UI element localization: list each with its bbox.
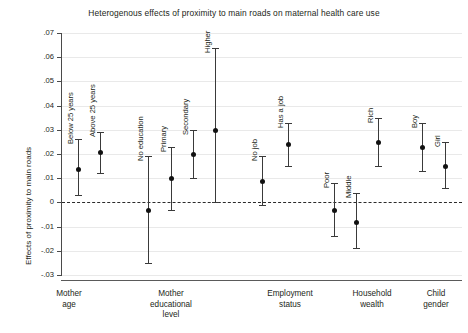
y-axis-tick — [57, 130, 62, 131]
chart-title: Heterogenous effects of proximity to mai… — [0, 8, 468, 18]
figure-root: Heterogenous effects of proximity to mai… — [0, 0, 468, 333]
series-label: Rich — [366, 107, 375, 122]
series-label: Higher — [203, 30, 212, 52]
x-group-label-line: Employment — [250, 289, 330, 300]
error-bar-cap — [145, 263, 152, 264]
y-axis-tick — [57, 154, 62, 155]
gridline — [62, 130, 462, 131]
x-group-label-line: Mother — [114, 289, 228, 300]
y-axis-tick — [57, 178, 62, 179]
series-label: Boy — [410, 114, 419, 127]
y-axis-title: Effects of proximity to main roads — [24, 147, 33, 265]
y-axis-tick — [57, 33, 62, 34]
y-tick-label: .05 — [6, 76, 54, 85]
series-label: Above 25 years — [88, 84, 97, 137]
data-point — [332, 208, 337, 213]
series-label: Primary — [159, 126, 168, 152]
y-tick-label: .07 — [6, 28, 54, 37]
y-tick-label: -.03 — [6, 270, 54, 279]
error-bar-cap — [442, 188, 449, 189]
y-axis-tick — [57, 106, 62, 107]
data-point — [146, 208, 151, 213]
error-bar-cap — [331, 236, 338, 237]
x-group-label-line: Household — [332, 289, 412, 300]
series-label: Middle — [344, 175, 353, 197]
y-axis-tick — [57, 251, 62, 252]
series-label: Secondary — [181, 98, 190, 134]
series-label: Below 25 years — [66, 93, 75, 145]
gridline — [62, 227, 462, 228]
series-label: Girl — [433, 135, 442, 147]
x-group-label-line: educational — [114, 300, 228, 311]
error-bar-cap — [285, 123, 292, 124]
x-group-label-line: wealth — [332, 300, 412, 311]
gridline — [62, 275, 462, 276]
data-point — [260, 179, 265, 184]
error-bar-cap — [331, 183, 338, 184]
error-bar-cap — [212, 48, 219, 49]
x-group-label: Employmentstatus — [250, 289, 330, 310]
y-tick-label: .03 — [6, 125, 54, 134]
data-point — [191, 152, 196, 157]
error-bar-cap — [419, 171, 426, 172]
x-group-label: Childgender — [404, 289, 468, 310]
y-axis-tick — [57, 81, 62, 82]
data-point — [76, 167, 81, 172]
y-axis-tick — [57, 227, 62, 228]
error-bar-cap — [75, 139, 82, 140]
error-bar-cap — [97, 173, 104, 174]
x-group-label-line: Mother — [46, 289, 92, 300]
x-group-label-line: status — [250, 300, 330, 311]
plot-area: Effects of proximity to main roadsBelow … — [62, 33, 462, 275]
y-tick-label: .04 — [6, 101, 54, 110]
error-bar-cap — [168, 147, 175, 148]
data-point — [169, 176, 174, 181]
gridline — [62, 251, 462, 252]
error-bar-cap — [145, 156, 152, 157]
error-bar-cap — [419, 123, 426, 124]
error-bar-cap — [212, 202, 219, 203]
data-point — [98, 150, 103, 155]
x-axis-line — [61, 280, 462, 281]
data-point — [354, 220, 359, 225]
error-bar-cap — [375, 118, 382, 119]
error-bar-cap — [353, 193, 360, 194]
y-axis-tick — [57, 57, 62, 58]
error-bar-cap — [97, 132, 104, 133]
error-bar-cap — [168, 210, 175, 211]
error-bar-cap — [259, 205, 266, 206]
x-group-label-line: level — [114, 310, 228, 321]
x-group-label: Householdwealth — [332, 289, 412, 310]
x-group-label: Mothereducationallevel — [114, 289, 228, 321]
gridline — [62, 81, 462, 82]
series-label: No education — [136, 117, 145, 162]
error-bar-cap — [353, 248, 360, 249]
y-axis-tick — [57, 275, 62, 276]
data-point — [420, 145, 425, 150]
data-point — [443, 164, 448, 169]
series-label: Has a job — [276, 95, 285, 127]
error-bar-cap — [375, 166, 382, 167]
series-label: Poor — [322, 172, 331, 188]
error-bar-cap — [190, 178, 197, 179]
error-bar-cap — [259, 156, 266, 157]
gridline — [62, 33, 462, 34]
data-point — [213, 128, 218, 133]
series-label: No job — [250, 139, 259, 161]
error-bar — [215, 48, 216, 203]
gridline — [62, 57, 462, 58]
error-bar-cap — [442, 142, 449, 143]
gridline — [62, 106, 462, 107]
error-bar-cap — [75, 195, 82, 196]
error-bar-cap — [285, 166, 292, 167]
data-point — [286, 142, 291, 147]
gridline — [62, 154, 462, 155]
error-bar-cap — [190, 130, 197, 131]
x-group-label: Motherage — [46, 289, 92, 310]
y-tick-label: .06 — [6, 52, 54, 61]
x-group-label-line: gender — [404, 300, 468, 311]
x-group-label-line: Child — [404, 289, 468, 300]
data-point — [376, 140, 381, 145]
x-group-label-line: age — [46, 300, 92, 311]
